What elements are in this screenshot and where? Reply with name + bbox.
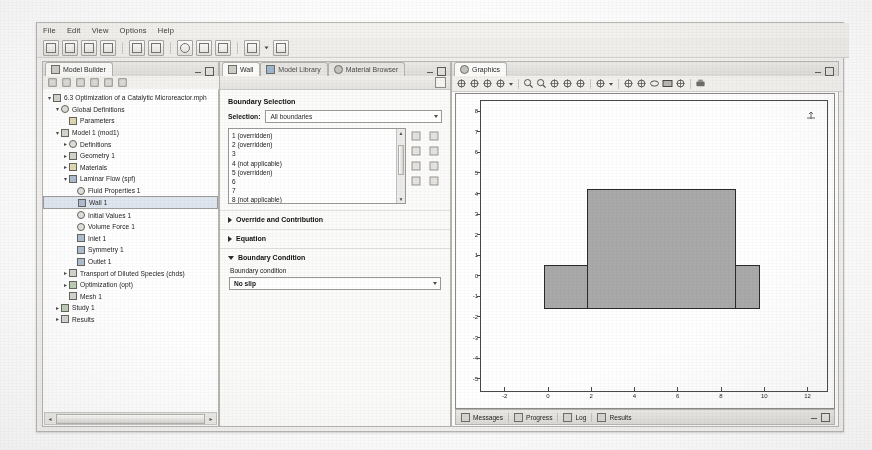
- boundary-list-vscrollbar[interactable]: ▲ ▼: [396, 129, 405, 203]
- tree-item[interactable]: Parameters: [43, 115, 218, 127]
- boundary-list-item[interactable]: 2 (overridden): [229, 140, 405, 149]
- chevron-right-icon[interactable]: [228, 236, 232, 242]
- tree-toggle-right[interactable]: ▸: [62, 141, 69, 147]
- section-header-equation[interactable]: Equation: [220, 229, 450, 242]
- add-to-selection-icon[interactable]: [410, 160, 423, 172]
- open-icon[interactable]: [62, 40, 78, 56]
- section-header-boundary-condition[interactable]: Boundary Condition: [220, 248, 450, 261]
- refresh-icon[interactable]: [177, 40, 193, 56]
- tree-toggle-right[interactable]: ▸: [62, 282, 69, 288]
- tab-model-builder[interactable]: Model Builder: [45, 62, 113, 76]
- vscroll-thumb[interactable]: [398, 145, 404, 175]
- tree-item[interactable]: ▸Optimization (opt): [43, 279, 218, 291]
- scroll-left-icon[interactable]: ◄: [45, 414, 55, 423]
- zoom-box-icon[interactable]: [549, 78, 560, 89]
- new-icon[interactable]: [43, 40, 59, 56]
- chevron-right-icon[interactable]: [228, 217, 232, 223]
- select-lasso-icon[interactable]: [636, 78, 647, 89]
- minimize-icon[interactable]: [815, 70, 821, 73]
- select-all-icon[interactable]: [662, 78, 673, 89]
- clear-selection-icon[interactable]: [410, 175, 423, 187]
- tree-toggle-right[interactable]: ▸: [54, 305, 61, 311]
- tree-item[interactable]: ▸Results: [43, 314, 218, 326]
- expand-icon[interactable]: [62, 78, 71, 87]
- dropdown-arrow-icon[interactable]: [508, 78, 514, 89]
- tree-item[interactable]: ▸Geometry 1: [43, 150, 218, 162]
- print-icon[interactable]: [100, 40, 116, 56]
- deselect-icon[interactable]: [675, 78, 686, 89]
- maximize-icon[interactable]: [825, 67, 834, 76]
- boundary-list[interactable]: 1 (overridden)2 (overridden)34 (not appl…: [228, 128, 406, 204]
- collapse-icon[interactable]: [48, 78, 57, 87]
- tree-item[interactable]: ▾Global Definitions: [43, 104, 218, 116]
- paste-icon[interactable]: [215, 40, 231, 56]
- maximize-icon[interactable]: [821, 413, 830, 422]
- status-tab-log[interactable]: Log: [558, 411, 591, 423]
- plot-canvas[interactable]: 876543210-1-2-3-4-5-2024681012: [455, 93, 835, 409]
- paste-selection-icon[interactable]: [428, 145, 441, 157]
- tree-item[interactable]: Fluid Properties 1: [43, 185, 218, 197]
- zoom-in-icon[interactable]: [523, 78, 534, 89]
- boundary-list-item[interactable]: 4 (not applicable): [229, 159, 405, 168]
- tree-toggle-right[interactable]: ▸: [62, 270, 69, 276]
- tree-item[interactable]: ▸Materials: [43, 162, 218, 174]
- tree-item[interactable]: ▸Definitions: [43, 138, 218, 150]
- tree-item[interactable]: Volume Force 1: [43, 221, 218, 233]
- redo-icon[interactable]: [148, 40, 164, 56]
- active-selection-icon[interactable]: [410, 130, 423, 142]
- table-icon[interactable]: [273, 40, 289, 56]
- menu-item-options[interactable]: Options: [120, 26, 147, 35]
- boundary-list-item[interactable]: 7: [229, 186, 405, 195]
- select-circle-icon[interactable]: [649, 78, 660, 89]
- tab-graphics[interactable]: Graphics: [454, 62, 507, 76]
- orthographic-icon[interactable]: [595, 78, 606, 89]
- tree-toggle-down[interactable]: ▾: [54, 106, 61, 112]
- hscroll-thumb[interactable]: [56, 414, 205, 424]
- tree-toggle-right[interactable]: ▸: [62, 164, 69, 170]
- tree-item[interactable]: Symmetry 1: [43, 244, 218, 256]
- status-tab-results[interactable]: Results: [592, 411, 636, 423]
- tree-toggle-down[interactable]: ▾: [62, 176, 69, 182]
- tree-item[interactable]: Mesh 1: [43, 291, 218, 303]
- scene-light-icon[interactable]: [495, 78, 506, 89]
- selection-dropdown[interactable]: All boundaries: [265, 110, 442, 123]
- rotate-icon[interactable]: [482, 78, 493, 89]
- section-header-override-and-contribution[interactable]: Override and Contribution: [220, 210, 450, 223]
- boundary-list-item[interactable]: 1 (overridden): [229, 131, 405, 140]
- boundary-list-item[interactable]: 3: [229, 149, 405, 158]
- move-down-icon[interactable]: [90, 78, 99, 87]
- scroll-down-icon[interactable]: ▼: [397, 195, 405, 203]
- tree-item[interactable]: ▾Model 1 (mod1): [43, 127, 218, 139]
- boundary-list-item[interactable]: 5 (overridden): [229, 168, 405, 177]
- menu-item-help[interactable]: Help: [158, 26, 174, 35]
- tab-material-browser[interactable]: Material Browser: [328, 62, 406, 76]
- remove-from-selection-icon[interactable]: [428, 160, 441, 172]
- tab-wall[interactable]: Wall: [222, 62, 260, 76]
- minimize-icon[interactable]: [811, 416, 817, 419]
- maximize-icon[interactable]: [437, 67, 446, 76]
- scroll-up-icon[interactable]: ▲: [397, 129, 405, 137]
- status-tab-messages[interactable]: Messages: [456, 411, 508, 423]
- copy-selection-icon[interactable]: [410, 145, 423, 157]
- boundary-condition-dropdown[interactable]: No slip: [229, 277, 441, 290]
- tree-item[interactable]: ▸Study 1: [43, 302, 218, 314]
- menu-item-view[interactable]: View: [92, 26, 109, 35]
- copy-icon[interactable]: [196, 40, 212, 56]
- zoom-selected-icon[interactable]: [428, 130, 441, 142]
- zoom-out-scene-icon[interactable]: [469, 78, 480, 89]
- zoom-selection-icon[interactable]: [575, 78, 586, 89]
- tree-item[interactable]: ▾6.3 Optimization of a Catalytic Microre…: [43, 92, 218, 104]
- move-up-icon[interactable]: [76, 78, 85, 87]
- sort-icon[interactable]: [104, 78, 113, 87]
- boundary-list-item[interactable]: 6: [229, 177, 405, 186]
- filter-icon[interactable]: [118, 78, 127, 87]
- menu-item-file[interactable]: File: [43, 26, 56, 35]
- tree-toggle-right[interactable]: ▸: [62, 153, 69, 159]
- model-tree[interactable]: ▾6.3 Optimization of a Catalytic Microre…: [43, 89, 218, 413]
- settings-window-icon[interactable]: [435, 77, 446, 88]
- tree-item[interactable]: Inlet 1: [43, 233, 218, 245]
- tree-item[interactable]: Outlet 1: [43, 256, 218, 268]
- model-tree-hscrollbar[interactable]: ◄ ►: [44, 412, 217, 425]
- tree-item[interactable]: ▾Laminar Flow (spf): [43, 173, 218, 185]
- build-icon[interactable]: [244, 40, 260, 56]
